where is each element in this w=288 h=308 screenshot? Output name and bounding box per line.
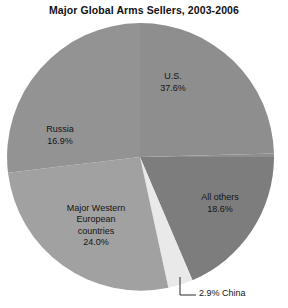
slice-label-all-others: All others 18.6% bbox=[178, 192, 262, 215]
slice-label-us-value: 37.6% bbox=[136, 83, 210, 95]
slice-label-europe-value: 24.0% bbox=[50, 237, 142, 248]
slice-label-europe: Major Western European countries 24.0% bbox=[50, 203, 142, 249]
slice-label-all-others-value: 18.6% bbox=[178, 204, 262, 216]
pie-chart-figure: Major Global Arms Sellers, 2003-2006 U.S… bbox=[0, 0, 288, 308]
slice-label-europe-line3: countries bbox=[50, 226, 142, 237]
slice-label-us-name: U.S. bbox=[136, 71, 210, 83]
slice-label-all-others-name: All others bbox=[178, 192, 262, 204]
pie-slice-russia bbox=[7, 23, 140, 173]
pie-svg bbox=[0, 0, 288, 308]
slice-label-europe-line1: Major Western bbox=[50, 203, 142, 214]
slice-label-europe-line2: European bbox=[50, 214, 142, 225]
slice-label-russia: Russia 16.9% bbox=[25, 124, 95, 147]
slice-label-russia-value: 16.9% bbox=[25, 136, 95, 148]
slice-label-russia-name: Russia bbox=[25, 124, 95, 136]
slice-label-us: U.S. 37.6% bbox=[136, 71, 210, 94]
slice-label-china: 2.9% China bbox=[199, 288, 246, 298]
